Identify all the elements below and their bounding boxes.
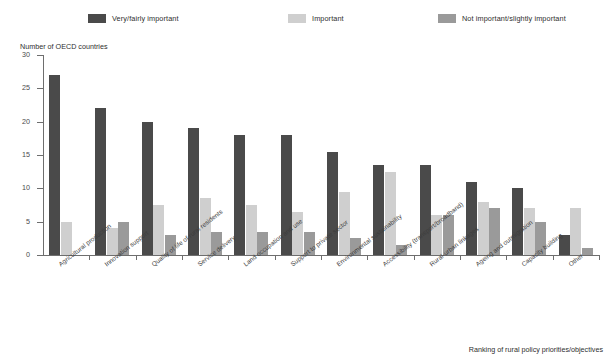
y-tick-label: 20 bbox=[8, 118, 30, 125]
y-axis-title: Number of OECD countries bbox=[20, 42, 107, 51]
legend-swatch-important bbox=[288, 14, 306, 23]
y-tick-label: 5 bbox=[8, 218, 30, 225]
x-tick-mark bbox=[275, 256, 276, 260]
bar-group bbox=[460, 55, 506, 255]
x-tick-mark bbox=[506, 256, 507, 260]
y-tick-label: 15 bbox=[8, 151, 30, 158]
bar-1 bbox=[385, 172, 396, 255]
bar-group bbox=[228, 55, 274, 255]
bar-1 bbox=[524, 208, 535, 255]
x-tick-mark bbox=[136, 256, 137, 260]
chart-legend: Very/fairly important Important Not impo… bbox=[0, 14, 615, 28]
bar-0 bbox=[512, 188, 523, 255]
x-tick-mark bbox=[460, 256, 461, 260]
x-tick-mark bbox=[599, 256, 600, 260]
legend-item-important: Important bbox=[288, 14, 344, 23]
bar-group bbox=[136, 55, 182, 255]
legend-swatch-not-important bbox=[438, 14, 456, 23]
legend-label-very-fairly-important: Very/fairly important bbox=[112, 14, 179, 23]
bar-1 bbox=[478, 202, 489, 255]
y-tick-label: 0 bbox=[8, 251, 30, 258]
bar-group bbox=[89, 55, 135, 255]
bar-group bbox=[553, 55, 599, 255]
legend-label-not-important: Not important/slightly important bbox=[462, 14, 566, 23]
top-cropped-text bbox=[0, 0, 615, 8]
legend-item-not-important: Not important/slightly important bbox=[438, 14, 566, 23]
bar-group bbox=[43, 55, 89, 255]
x-tick-mark bbox=[321, 256, 322, 260]
y-tick-label: 25 bbox=[8, 84, 30, 91]
x-tick-mark bbox=[367, 256, 368, 260]
y-tick-label: 30 bbox=[8, 51, 30, 58]
bar-1 bbox=[570, 208, 581, 255]
bar-1 bbox=[61, 222, 72, 255]
bar-1 bbox=[246, 205, 257, 255]
legend-item-very-fairly-important: Very/fairly important bbox=[88, 14, 179, 23]
bar-1 bbox=[153, 205, 164, 255]
x-axis-title: Ranking of rural policy priorities/objec… bbox=[469, 345, 603, 354]
bar-0 bbox=[420, 165, 431, 255]
x-tick-mark bbox=[414, 256, 415, 260]
x-tick-mark bbox=[89, 256, 90, 260]
x-tick-mark bbox=[228, 256, 229, 260]
x-tick-mark bbox=[553, 256, 554, 260]
bar-0 bbox=[234, 135, 245, 255]
bar-2 bbox=[582, 248, 593, 255]
bar-0 bbox=[373, 165, 384, 255]
x-tick-mark bbox=[182, 256, 183, 260]
y-tick-label: 10 bbox=[8, 184, 30, 191]
plot-area bbox=[43, 55, 599, 255]
legend-swatch-very-fairly-important bbox=[88, 14, 106, 23]
bar-0 bbox=[49, 75, 60, 255]
bar-0 bbox=[466, 182, 477, 255]
legend-label-important: Important bbox=[312, 14, 344, 23]
